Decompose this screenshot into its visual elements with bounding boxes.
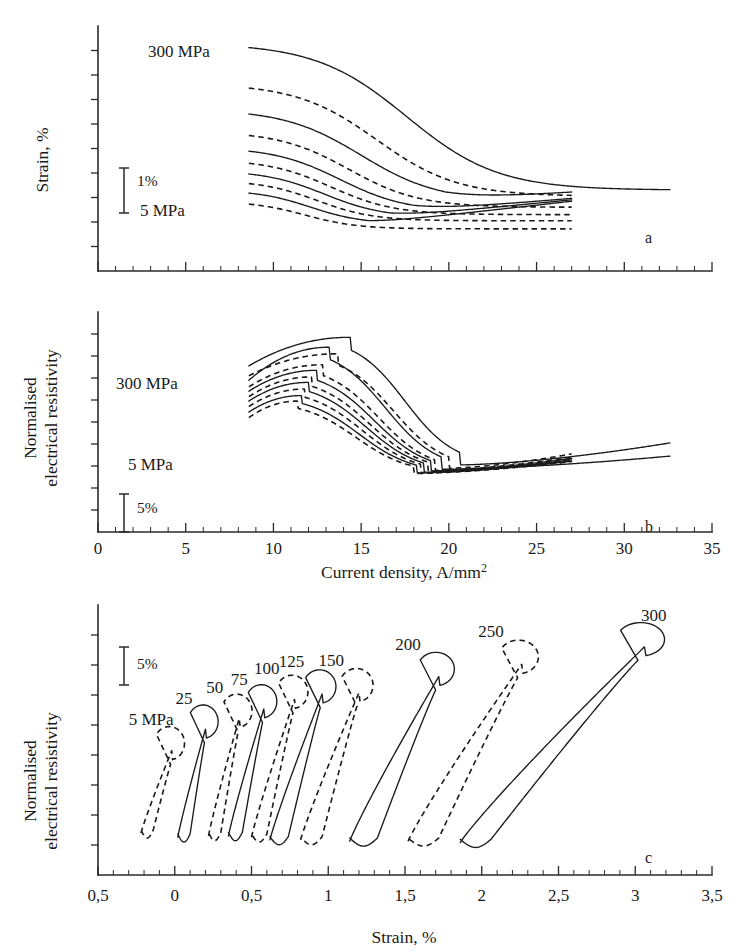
panel-c-loop	[408, 640, 538, 846]
panel-a-curve	[249, 151, 572, 206]
xtick-label: 2	[478, 886, 487, 905]
panel-c-curve-label: 250	[478, 622, 504, 641]
xtick-label: 3,5	[701, 886, 722, 905]
xtick-label: 1	[324, 886, 333, 905]
panel-c-loop	[350, 652, 455, 846]
xtick-label: 0,5	[241, 886, 262, 905]
figure-root: Strain, % 300 MPa 5 MPa 1% a 05101520253…	[0, 0, 738, 951]
xtick-label: 0,5	[87, 886, 108, 905]
xtick-label: 2,5	[548, 886, 569, 905]
panel-a-geometry	[91, 26, 712, 271]
panel-c-curve-label: 100	[254, 659, 280, 678]
panel-a: Strain, % 300 MPa 5 MPa 1% a	[0, 0, 738, 300]
panel-c-curve-label: 300	[641, 606, 667, 625]
panel-b-curve	[249, 337, 670, 465]
xtick-label: 35	[704, 539, 721, 558]
panel-c-plot: 0,500,511,522,533,55 MPa2550751001251502…	[0, 585, 738, 951]
panel-a-plot	[0, 0, 738, 300]
panel-b-geometry: 05101520253035	[91, 312, 721, 558]
panel-c-loop	[228, 685, 276, 841]
xtick-label: 15	[353, 539, 370, 558]
panel-b-curve	[249, 365, 572, 471]
panel-c-curve-label: 25	[175, 689, 192, 708]
panel-a-curve	[249, 136, 572, 208]
xtick-label: 5	[181, 539, 190, 558]
panel-c-curve-label: 200	[395, 635, 421, 654]
panel-c-curve-label: 50	[206, 678, 223, 697]
xtick-label: 0	[94, 539, 103, 558]
panel-a-curve	[249, 48, 670, 190]
panel-b: 05101520253035 Normalised electrical res…	[0, 300, 738, 585]
xtick-label: 3	[631, 886, 640, 905]
panel-b-curve	[249, 370, 572, 471]
xtick-label: 20	[440, 539, 457, 558]
panel-b-plot: 05101520253035	[0, 300, 738, 585]
xtick-label: 30	[616, 539, 633, 558]
panel-c-loop	[301, 669, 373, 845]
panel-c-loop	[209, 694, 253, 841]
panel-c-loop	[252, 675, 308, 842]
panel-c-curve-label: 150	[319, 651, 345, 670]
xtick-label: 1,5	[394, 886, 415, 905]
xtick-label: 10	[265, 539, 282, 558]
panel-c-geometry: 0,500,511,522,533,55 MPa2550751001251502…	[87, 605, 722, 905]
panel-c-curve-label: 5 MPa	[129, 710, 174, 729]
panel-a-curve	[249, 204, 572, 229]
panel-c-curve-label: 75	[231, 670, 248, 689]
panel-a-curve	[249, 114, 572, 195]
panel-c-loop	[460, 623, 664, 848]
panel-c-loop	[141, 727, 185, 838]
panel-c: 0,500,511,522,533,55 MPa2550751001251502…	[0, 585, 738, 951]
panel-c-curve-label: 125	[279, 652, 305, 671]
panel-a-curve	[249, 193, 572, 220]
xtick-label: 0	[171, 886, 180, 905]
xtick-label: 25	[528, 539, 545, 558]
